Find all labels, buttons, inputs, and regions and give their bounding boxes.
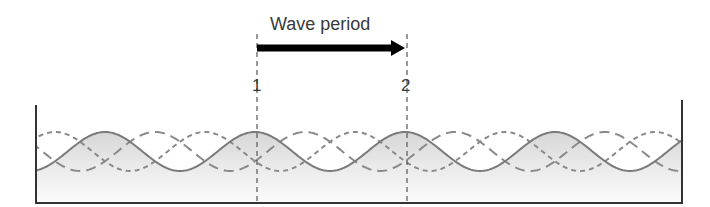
marker-label-2: 2: [401, 76, 410, 96]
marker-label-1: 1: [252, 76, 261, 96]
arrowhead-icon: [391, 40, 405, 56]
diagram-title: Wave period: [270, 14, 370, 35]
wave-period-arrow: [257, 40, 405, 56]
